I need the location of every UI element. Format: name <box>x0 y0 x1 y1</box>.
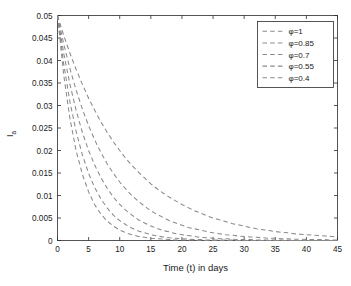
x-tick-label: 0 <box>55 245 60 254</box>
x-tick-label: 10 <box>115 245 125 254</box>
x-tick-label: 35 <box>271 245 281 254</box>
x-tick-label: 30 <box>240 245 250 254</box>
y-tick-label: 0.03 <box>37 102 53 111</box>
legend-label-1: φ=0.85 <box>289 39 315 48</box>
y-axis-label-sub: a <box>10 131 17 135</box>
y-tick-label: 0 <box>48 237 53 246</box>
y-tick-label: 0.01 <box>37 192 53 201</box>
legend-label-0: φ=1 <box>289 27 304 36</box>
x-tick-label: 45 <box>333 245 343 254</box>
y-tick-label: 0.015 <box>32 169 53 178</box>
y-tick-label: 0.04 <box>37 57 53 66</box>
legend-label-4: φ=0.4 <box>289 74 311 83</box>
x-tick-label: 5 <box>86 245 91 254</box>
chart-plot: 051015202530354045 00.0050.010.0150.020.… <box>0 0 351 286</box>
x-axis-label-text: Time (t) in days <box>123 262 228 273</box>
legend-label-2: φ=0.7 <box>289 51 311 60</box>
y-tick-label: 0.025 <box>32 124 53 133</box>
x-tick-label: 40 <box>302 245 312 254</box>
y-tick-label: 0.045 <box>32 34 53 43</box>
y-tick-label: 0.035 <box>32 79 53 88</box>
x-tick-label: 15 <box>146 245 156 254</box>
y-tick-labels: 00.0050.010.0150.020.0250.030.0350.040.0… <box>32 12 53 246</box>
y-axis-label: Ia <box>2 112 22 152</box>
x-tick-labels: 051015202530354045 <box>55 245 342 254</box>
chart-legend: φ=1φ=0.85φ=0.7φ=0.55φ=0.4 <box>258 22 334 88</box>
x-tick-label: 25 <box>209 245 219 254</box>
x-axis-label: Time (t) in days <box>0 262 351 273</box>
y-tick-label: 0.005 <box>32 214 53 223</box>
y-tick-label: 0.02 <box>37 147 53 156</box>
figure-canvas: 051015202530354045 00.0050.010.0150.020.… <box>0 0 351 286</box>
legend-label-3: φ=0.55 <box>289 62 315 71</box>
x-tick-label: 20 <box>177 245 187 254</box>
y-tick-label: 0.05 <box>37 12 53 21</box>
